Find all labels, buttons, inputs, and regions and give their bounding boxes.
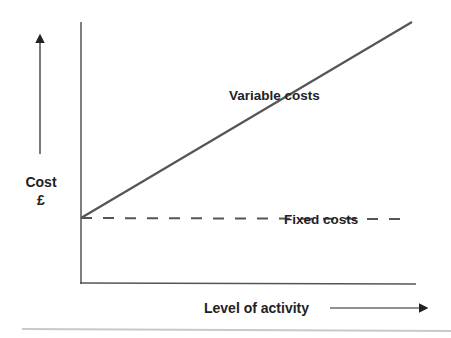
x-axis-label: Level of activity <box>204 300 309 316</box>
fixed-costs-label: Fixed costs <box>284 212 358 227</box>
variable-costs-line <box>81 22 412 218</box>
bottom-divider <box>22 329 451 331</box>
y-axis-unit: £ <box>37 192 45 208</box>
variable-costs-label: Variable costs <box>229 88 320 103</box>
y-axis-label: Cost <box>25 174 56 190</box>
cost-behaviour-chart: Cost £ Variable costs Fixed costs Level … <box>0 0 451 338</box>
x-axis <box>80 283 416 284</box>
